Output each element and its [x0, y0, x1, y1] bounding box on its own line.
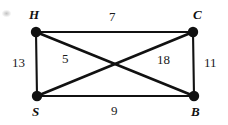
vertex-label-H: H: [29, 8, 39, 21]
vertex-B: [189, 91, 199, 101]
edge-weight-H-C: 7: [109, 10, 116, 23]
edge-weight-S-B: 9: [111, 104, 118, 117]
edge-weight-C-B: 11: [204, 56, 217, 69]
edge-weight-H-B: 5: [62, 52, 69, 65]
vertex-C: [188, 27, 198, 37]
edge-C-B: [193, 32, 194, 96]
edge-H-S: [36, 32, 37, 96]
weighted-graph-diagram: H C S B 7 13 11 9 5 18: [0, 0, 228, 125]
vertex-label-S: S: [32, 105, 39, 118]
vertex-label-C: C: [193, 8, 202, 21]
vertex-H: [31, 27, 41, 37]
edge-weight-H-S: 13: [12, 56, 25, 69]
edge-weight-S-C: 18: [157, 53, 170, 66]
vertex-S: [32, 91, 42, 101]
vertex-label-B: B: [191, 105, 200, 118]
